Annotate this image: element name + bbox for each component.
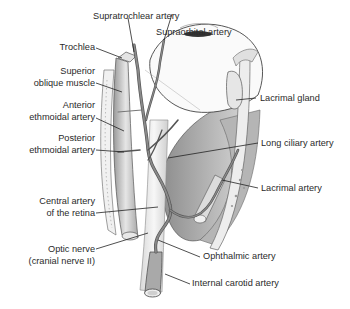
superior-oblique-muscle [114, 58, 138, 240]
label-long-ciliary-artery: Long ciliary artery [261, 138, 334, 149]
label-internal-carotid-artery: Internal carotid artery [192, 278, 279, 289]
label-superior-oblique-line1: Superior [60, 66, 95, 77]
label-posterior-ethmoidal-line1: Posterior [58, 133, 95, 144]
label-posterior-ethmoidal-line2: ethmoidal artery [29, 145, 95, 156]
label-supratrochlear-artery: Supratrochlear artery [93, 11, 179, 22]
label-central-artery-line1: Central artery [39, 196, 95, 207]
label-trochlea: Trochlea [60, 42, 95, 53]
label-anterior-ethmoidal-line2: ethmoidal artery [29, 112, 95, 123]
label-superior-oblique-line2: oblique muscle [34, 78, 95, 89]
ophthalmic-artery-diagram: Supratrochlear artery Supraorbital arter… [0, 0, 350, 309]
label-supraorbital-artery: Supraorbital artery [156, 27, 232, 38]
label-lacrimal-gland: Lacrimal gland [260, 93, 320, 104]
label-central-artery-line2: of the retina [46, 208, 95, 219]
label-optic-nerve-line2: (cranial nerve II) [29, 256, 95, 267]
label-lacrimal-artery: Lacrimal artery [261, 183, 322, 194]
label-optic-nerve-line1: Optic nerve [48, 244, 95, 255]
label-ophthalmic-artery: Ophthalmic artery [203, 251, 276, 262]
label-anterior-ethmoidal-line1: Anterior [63, 100, 95, 111]
